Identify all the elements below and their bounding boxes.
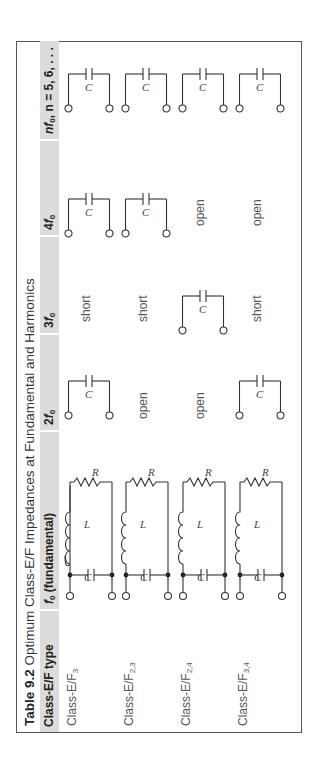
header-3f0: 3f0 — [40, 237, 59, 333]
row4-type: Class-E/F3,4 — [236, 662, 251, 726]
impedance-table: Table 9.2 Optimum Class-E/F Impedances a… — [16, 41, 302, 733]
header-type: Class-E/F type — [40, 611, 59, 732]
subscript: 0 — [48, 596, 57, 600]
subscript: 0 — [48, 410, 57, 414]
row3-type: Class-E/F2,4 — [179, 662, 194, 726]
rlc-circuit-icon: C L R — [236, 480, 286, 600]
row2-type: Class-E/F2,3 — [122, 662, 137, 726]
svg-text:L: L — [139, 518, 146, 530]
type-sub: 3,4 — [242, 662, 251, 673]
table-number: Table 9.2 — [22, 669, 37, 726]
svg-text:C: C — [140, 571, 148, 583]
svg-text:C: C — [256, 81, 264, 93]
svg-text:L: L — [253, 518, 260, 530]
header-4f0: 4f0 — [40, 141, 59, 235]
f-symbol: f — [42, 414, 56, 418]
svg-text:C: C — [85, 81, 93, 93]
type-sub: 3 — [71, 669, 80, 673]
row4-3f0-value: short — [250, 295, 264, 322]
rlc-circuit-icon: C L R — [66, 480, 116, 600]
series-capacitor-icon: C — [179, 288, 227, 334]
rlc-circuit-icon: C L R — [179, 480, 229, 600]
svg-text:C: C — [85, 388, 93, 400]
series-capacitor-icon: C — [236, 66, 284, 112]
svg-text:R: R — [261, 466, 269, 478]
prefix: 4 — [42, 223, 56, 230]
series-capacitor-icon: C — [65, 373, 113, 419]
f-symbol: f — [42, 219, 56, 223]
row2-3f0-value: short — [136, 295, 150, 322]
subscript: 0 — [48, 118, 57, 122]
row1-3f0-value: short — [79, 295, 93, 322]
row1-type: Class-E/F3 — [65, 669, 80, 726]
f-symbol: f — [42, 123, 56, 127]
series-capacitor-icon: C — [179, 66, 227, 112]
type-sub: 2,4 — [185, 662, 194, 673]
svg-text:C: C — [142, 81, 150, 93]
svg-text:C: C — [85, 206, 93, 218]
subscript: 0 — [48, 313, 57, 317]
prefix: 3 — [42, 321, 56, 328]
header-nf0: nf0, n = 5, 6, . . . — [40, 41, 59, 139]
svg-text:C: C — [142, 206, 150, 218]
f-symbol: f — [42, 600, 56, 604]
svg-text:C: C — [199, 81, 207, 93]
series-capacitor-icon: C — [122, 191, 170, 237]
svg-text:R: R — [204, 466, 212, 478]
type-sub: 2,3 — [128, 662, 137, 673]
header-type-label: Class-E/F type — [42, 644, 56, 727]
type-base: Class-E/F — [236, 673, 250, 726]
svg-text:L: L — [83, 518, 90, 530]
series-capacitor-icon: C — [65, 66, 113, 112]
row3-2f0-value: open — [193, 392, 207, 419]
rlc-circuit-icon: C L R — [122, 480, 172, 600]
type-base: Class-E/F — [122, 673, 136, 726]
table-caption: Table 9.2 Optimum Class-E/F Impedances a… — [20, 278, 40, 726]
header-2f0: 2f0 — [40, 335, 59, 430]
row2-2f0-value: open — [136, 392, 150, 419]
svg-text:C: C — [256, 388, 264, 400]
header-nf0-rest: , n = 5, 6, . . . — [42, 47, 56, 118]
row4-4f0-value: open — [250, 199, 264, 226]
header-f0-rest: (fundamental) — [42, 513, 56, 596]
f-symbol: f — [42, 317, 56, 321]
prefix: 2 — [42, 418, 56, 425]
row3-4f0-value: open — [193, 199, 207, 226]
series-capacitor-icon: C — [65, 191, 113, 237]
svg-text:C: C — [254, 571, 262, 583]
type-base: Class-E/F — [179, 673, 193, 726]
header-f0: f0 (fundamental) — [40, 432, 59, 609]
svg-text:C: C — [197, 571, 205, 583]
type-base: Class-E/F — [65, 673, 79, 726]
svg-text:L: L — [196, 518, 203, 530]
n-symbol: n — [42, 127, 56, 134]
svg-text:R: R — [147, 466, 155, 478]
svg-text:C: C — [199, 303, 207, 315]
subscript: 0 — [48, 215, 57, 219]
series-capacitor-icon: C — [236, 373, 284, 419]
table-caption-text: Optimum Class-E/F Impedances at Fundamen… — [22, 278, 37, 665]
svg-text:C: C — [84, 571, 92, 583]
svg-text:R: R — [91, 466, 99, 478]
series-capacitor-icon: C — [122, 66, 170, 112]
